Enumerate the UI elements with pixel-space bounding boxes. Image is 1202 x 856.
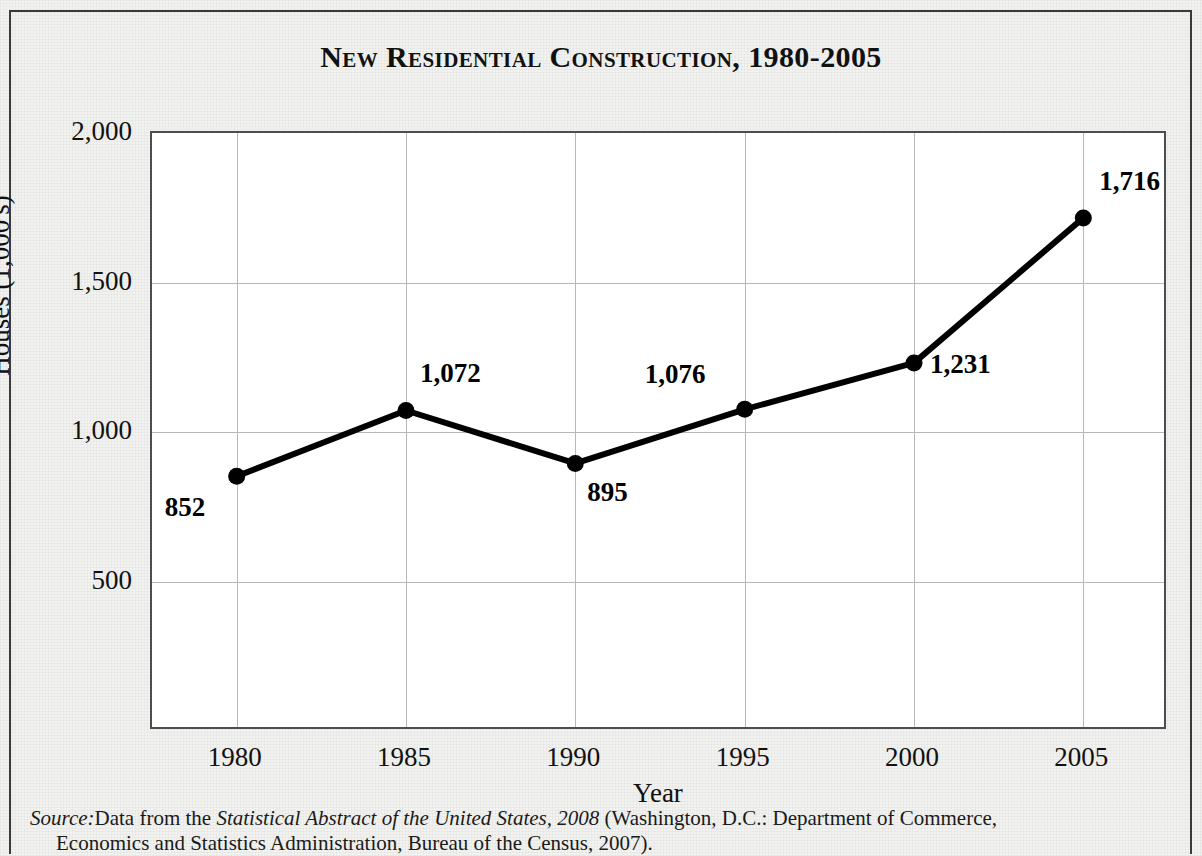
x-axis-tick-label: 2000 bbox=[885, 742, 939, 773]
y-axis-tick-label: 500 bbox=[0, 564, 132, 595]
series-polyline bbox=[237, 218, 1084, 476]
x-axis-tick-label: 1980 bbox=[208, 742, 262, 773]
data-series-line bbox=[152, 133, 1168, 731]
source-text-a: Data from the bbox=[95, 806, 217, 830]
data-point-label: 1,072 bbox=[420, 358, 481, 389]
data-point-label: 852 bbox=[165, 492, 206, 523]
source-publication-title: Statistical Abstract of the United State… bbox=[216, 806, 599, 830]
x-axis-tick-label: 2005 bbox=[1054, 742, 1108, 773]
y-axis-tick-label: 1,500 bbox=[0, 265, 132, 296]
source-line-2: Economics and Statistics Administration,… bbox=[30, 831, 1180, 856]
data-point-label: 895 bbox=[587, 477, 628, 508]
x-axis-tick-label: 1995 bbox=[716, 742, 770, 773]
data-point-marker bbox=[228, 468, 245, 485]
plot-area: 8521,0728951,0761,2311,716 bbox=[150, 131, 1166, 729]
y-axis-tick-label: 2,000 bbox=[0, 116, 132, 147]
data-point-marker bbox=[567, 455, 584, 472]
y-axis-title: Houses (1,000's) bbox=[0, 0, 16, 616]
source-note: Source:Data from the Statistical Abstrac… bbox=[30, 806, 1180, 856]
x-axis-title: Year bbox=[150, 778, 1166, 809]
data-point-marker bbox=[398, 402, 415, 419]
chart-title: New Residential Construction, 1980-2005 bbox=[0, 40, 1202, 74]
x-axis-tick-label: 1990 bbox=[546, 742, 600, 773]
y-axis-tick-label: 1,000 bbox=[0, 415, 132, 446]
data-point-label: 1,716 bbox=[1099, 166, 1160, 197]
figure-page: New Residential Construction, 1980-2005 … bbox=[0, 0, 1202, 856]
x-axis-tick-label: 1985 bbox=[377, 742, 431, 773]
data-point-label: 1,076 bbox=[645, 359, 706, 390]
source-prefix: Source: bbox=[30, 806, 95, 830]
source-text-b: (Washington, D.C.: Department of Commerc… bbox=[599, 806, 997, 830]
data-point-marker bbox=[906, 354, 923, 371]
data-point-marker bbox=[736, 401, 753, 418]
data-point-label: 1,231 bbox=[930, 349, 991, 380]
data-point-marker bbox=[1075, 209, 1092, 226]
